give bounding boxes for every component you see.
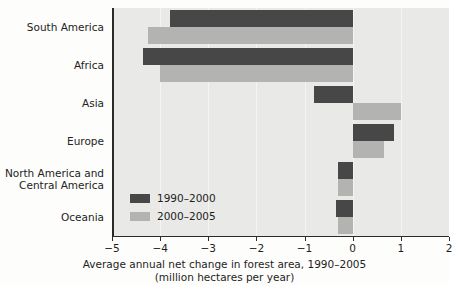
bar xyxy=(338,162,352,179)
category-label-africa: Africa xyxy=(0,59,104,71)
x-axis-title-line2: (million hectares per year) xyxy=(0,271,449,284)
category-label-oceania: Oceania xyxy=(0,211,104,223)
x-tick xyxy=(401,237,402,241)
x-tick-label: 2 xyxy=(434,242,457,254)
x-tick-label: 0 xyxy=(338,242,368,254)
x-axis-title-line1: Average annual net change in forest area… xyxy=(0,258,449,271)
x-tick xyxy=(208,237,209,241)
bar xyxy=(143,48,352,65)
legend-label-1990-2000: 1990–2000 xyxy=(157,192,216,204)
x-tick xyxy=(353,237,354,241)
bar xyxy=(353,103,401,120)
legend-label-2000-2005: 2000–2005 xyxy=(157,210,216,222)
category-label-south-america: South America xyxy=(0,21,104,33)
x-tick xyxy=(305,237,306,241)
category-axis-labels: South America Africa Asia Europe North A… xyxy=(0,8,108,236)
y-axis-line xyxy=(112,8,114,236)
gridline-1 xyxy=(401,8,402,236)
category-label-europe: Europe xyxy=(0,135,104,147)
x-axis-line xyxy=(112,236,449,237)
legend-item-1990-2000: 1990–2000 xyxy=(130,190,216,206)
bar xyxy=(353,141,384,158)
bar xyxy=(148,27,353,44)
bar xyxy=(338,217,352,234)
x-axis-title: Average annual net change in forest area… xyxy=(0,258,449,284)
bar xyxy=(160,65,353,82)
bar xyxy=(353,124,394,141)
x-tick-label: −4 xyxy=(145,242,175,254)
legend-swatch-1990-2000 xyxy=(130,194,150,203)
x-tick xyxy=(449,237,450,241)
bar xyxy=(338,179,352,196)
bar xyxy=(314,86,353,103)
bar xyxy=(336,200,353,217)
gridline-0 xyxy=(353,8,354,236)
legend-item-2000-2005: 2000–2005 xyxy=(130,208,216,224)
x-tick xyxy=(112,237,113,241)
category-label-asia: Asia xyxy=(0,97,104,109)
category-label-north-central-america: North America and Central America xyxy=(0,167,104,191)
bar xyxy=(170,10,353,27)
x-tick xyxy=(160,237,161,241)
x-tick-label: 1 xyxy=(386,242,416,254)
plot-area: 1990–2000 2000–2005 xyxy=(112,8,449,236)
x-tick-label: −2 xyxy=(241,242,271,254)
x-tick-label: −3 xyxy=(193,242,223,254)
legend-swatch-2000-2005 xyxy=(130,212,150,221)
x-tick xyxy=(256,237,257,241)
legend: 1990–2000 2000–2005 xyxy=(130,190,216,226)
x-tick-label: −5 xyxy=(97,242,127,254)
x-tick-label: −1 xyxy=(290,242,320,254)
